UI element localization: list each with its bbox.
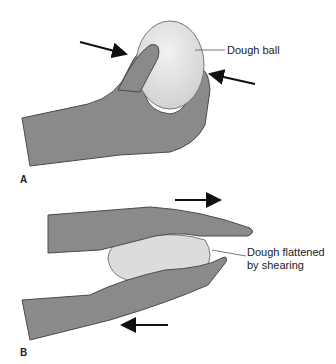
label-line-1: Dough flattened bbox=[247, 246, 325, 259]
arrow-a-right bbox=[80, 42, 126, 54]
illustration bbox=[0, 0, 336, 364]
label-dough-ball: Dough ball bbox=[227, 44, 280, 57]
label-dough-flattened: Dough flattened by shearing bbox=[247, 246, 325, 272]
panel-label-b: B bbox=[20, 347, 27, 358]
leader-b bbox=[212, 250, 246, 256]
arrow-a-left bbox=[210, 74, 255, 84]
label-line-2: by shearing bbox=[247, 259, 325, 272]
panel-label-a: A bbox=[20, 174, 27, 185]
